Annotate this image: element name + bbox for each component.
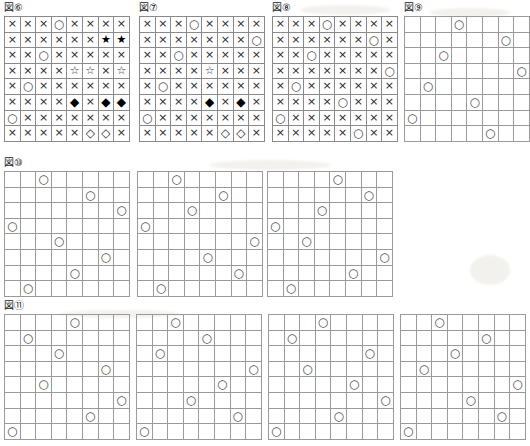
board-cell-r4-c7[interactable] [98,218,114,234]
board-cell-r3-c1[interactable]: × [5,48,21,64]
board-cell-r1-c3[interactable] [299,172,315,188]
board-cell-r6-c5[interactable] [331,392,347,408]
board-cell-r2-c8[interactable] [378,330,394,346]
board-cell-r8-c2[interactable] [420,126,436,142]
board-cell-r4-c3[interactable] [168,361,184,377]
board-cell-r8-c1[interactable] [5,281,21,297]
board-cell-r8-c5[interactable] [67,424,83,440]
board-cell-r4-c8[interactable] [247,218,263,234]
board-cell-r1-c2[interactable]: × [288,17,304,33]
board-cell-r1-c4[interactable]: ○ [451,17,467,33]
board-cell-r4-c4[interactable] [447,361,463,377]
board-cell-r2-c2[interactable] [153,187,169,203]
board-cell-r4-c5[interactable]: × [335,63,351,79]
board-cell-r7-c8[interactable]: × [382,110,398,126]
board-cell-r7-c5[interactable]: ○ [67,265,83,281]
board-cell-r7-c5[interactable] [199,408,215,424]
board-cell-r3-c6[interactable] [346,346,362,362]
board-cell-r2-c1[interactable] [138,187,154,203]
board-cell-r7-c8[interactable] [510,408,526,424]
board-cell-r2-c3[interactable] [300,330,316,346]
board-cell-r4-c1[interactable] [405,63,421,79]
board-cell-r7-c6[interactable] [214,408,230,424]
board-cell-r8-c1[interactable]: × [5,126,21,142]
board-cell-r2-c3[interactable] [299,187,315,203]
board-cell-r6-c1[interactable] [137,392,153,408]
board-cell-r1-c3[interactable]: × [36,17,52,33]
board-cell-r6-c8[interactable]: ○ [114,392,130,408]
board-cell-r1-c1[interactable]: × [5,17,21,33]
board-cell-r2-c4[interactable] [184,187,200,203]
board-cell-r5-c2[interactable] [20,377,36,393]
board-cell-r7-c1[interactable]: ○ [5,110,21,126]
board-cell-r5-c8[interactable] [114,377,130,393]
board-cell-r5-c6[interactable]: × [82,79,98,95]
board-cell-r8-c1[interactable]: ○ [137,424,153,440]
board-cell-r1-c4[interactable]: ○ [319,17,335,33]
board-cell-r3-c5[interactable] [330,203,346,219]
board-cell-r1-c7[interactable] [362,315,378,331]
board-cell-r7-c7[interactable] [362,408,378,424]
board-cell-r3-c1[interactable]: × [140,48,156,64]
board-cell-r6-c6[interactable] [82,249,98,265]
board-cell-r8-c4[interactable] [183,424,199,440]
board-cell-r2-c8[interactable] [514,32,530,48]
board-cell-r4-c4[interactable] [183,361,199,377]
board-cell-r5-c3[interactable]: ○ [299,234,315,250]
board-cell-r1-c1[interactable] [137,315,153,331]
board-cell-r4-c2[interactable]: × [20,63,36,79]
board-cell-r6-c8[interactable]: × [382,94,398,110]
board-cell-r3-c1[interactable] [401,346,417,362]
board-cell-r4-c7[interactable]: × [233,63,249,79]
board-cell-r2-c3[interactable] [36,330,52,346]
board-cell-r1-c2[interactable] [416,315,432,331]
board-cell-r6-c3[interactable] [432,392,448,408]
board-cell-r5-c1[interactable] [138,234,154,250]
board-cell-r7-c7[interactable] [98,408,114,424]
board-cell-r6-c5[interactable] [67,392,83,408]
board-cell-r5-c6[interactable]: ○ [214,377,230,393]
board-cell-r2-c8[interactable] [377,187,393,203]
board-cell-r5-c4[interactable] [184,234,200,250]
board-cell-r1-c4[interactable] [447,315,463,331]
board-cell-r2-c2[interactable] [283,187,299,203]
board-cell-r3-c3[interactable] [432,346,448,362]
board-cell-r6-c6[interactable]: × [350,94,366,110]
board-cell-r3-c2[interactable] [283,203,299,219]
board-cell-r2-c1[interactable] [401,330,417,346]
board-cell-r5-c7[interactable]: × [233,79,249,95]
board-cell-r3-c6[interactable] [482,48,498,64]
board-cell-r8-c4[interactable] [447,424,463,440]
board-cell-r2-c1[interactable] [269,330,285,346]
board-cell-r2-c4[interactable] [51,187,67,203]
board-cell-r2-c6[interactable] [482,32,498,48]
board-cell-r8-c6[interactable] [345,281,361,297]
board-cell-r6-c8[interactable]: ◆ [114,94,130,110]
board-cell-r5-c6[interactable] [345,234,361,250]
board-cell-r4-c4[interactable]: × [51,63,67,79]
board-cell-r4-c2[interactable] [153,218,169,234]
board-cell-r7-c4[interactable] [184,265,200,281]
board-cell-r4-c6[interactable] [346,361,362,377]
board-cell-r3-c5[interactable]: × [67,48,83,64]
board-cell-r3-c7[interactable] [98,203,114,219]
board-cell-r5-c2[interactable] [284,377,300,393]
board-cell-r5-c2[interactable] [152,377,168,393]
board-cell-r1-c8[interactable] [378,315,394,331]
board-cell-r6-c1[interactable]: × [273,94,289,110]
board-cell-r7-c4[interactable] [315,408,331,424]
board-cell-r6-c7[interactable]: ◆ [233,94,249,110]
board-cell-r7-c1[interactable]: ○ [405,110,421,126]
board-cell-r3-c6[interactable] [82,203,98,219]
board-cell-r5-c4[interactable] [314,234,330,250]
board-cell-r4-c2[interactable]: × [155,63,171,79]
board-cell-r1-c1[interactable] [5,172,21,188]
board-cell-r6-c3[interactable] [299,249,315,265]
board-cell-r7-c6[interactable]: ○ [82,408,98,424]
board-cell-r8-c1[interactable]: × [273,126,289,142]
board-cell-r7-c1[interactable] [269,408,285,424]
board-cell-r7-c4[interactable] [183,408,199,424]
board-cell-r5-c4[interactable]: × [186,79,202,95]
board-cell-r2-c1[interactable]: × [273,32,289,48]
board-cell-r2-c5[interactable] [67,187,83,203]
